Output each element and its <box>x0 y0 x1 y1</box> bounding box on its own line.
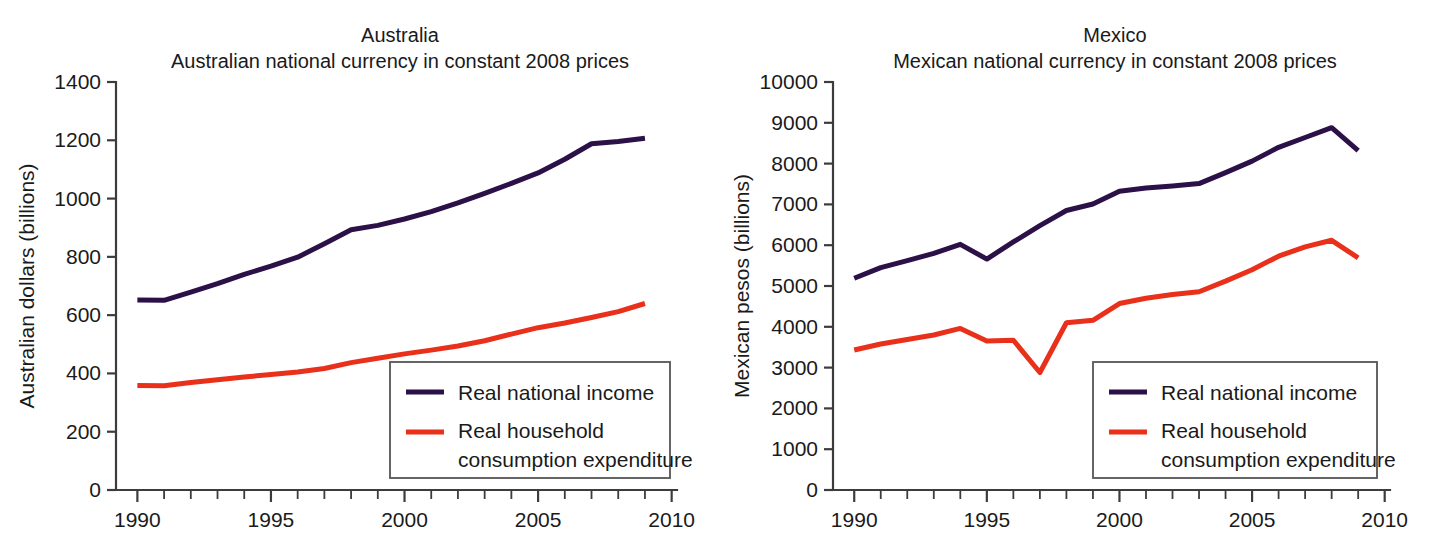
australia-y-tick-label: 0 <box>89 478 101 501</box>
mexico-y-tick-label: 9000 <box>771 111 818 134</box>
mexico-y-tick-label: 0 <box>806 478 818 501</box>
mexico-series-line <box>854 240 1358 372</box>
australia-x-tick-label: 1995 <box>248 508 295 531</box>
mexico-y-tick-label: 3000 <box>771 356 818 379</box>
mexico-x-tick-label: 2000 <box>1096 508 1143 531</box>
australia-chart-subtitle: Australian national currency in constant… <box>171 50 629 72</box>
mexico-y-tick-label: 4000 <box>771 315 818 338</box>
australia-x-tick-label: 2005 <box>515 508 562 531</box>
australia-y-tick-label: 1200 <box>54 128 101 151</box>
mexico-titles: Mexico Mexican national currency in cons… <box>893 24 1337 72</box>
australia-titles: Australia Australian national currency i… <box>171 24 629 72</box>
australia-legend: Real national income Real household cons… <box>390 362 693 478</box>
mexico-legend: Real national income Real household cons… <box>1093 362 1396 478</box>
australia-chart-title: Australia <box>361 24 440 46</box>
mexico-x-tick-label: 1995 <box>963 508 1010 531</box>
mexico-chart-subtitle: Mexican national currency in constant 20… <box>893 50 1337 72</box>
mexico-y-tick-label: 1000 <box>771 437 818 460</box>
australia-y-axis-title: Australian dollars (billions) <box>15 163 38 408</box>
australia-y-tick-label: 1400 <box>54 70 101 93</box>
australia-x-tick-label: 2000 <box>381 508 428 531</box>
mexico-y-tick-label: 8000 <box>771 152 818 175</box>
mexico-series <box>854 128 1358 373</box>
chart-panel-mexico: Mexico Mexican national currency in cons… <box>715 0 1431 552</box>
australia-x-tick-label: 2010 <box>648 508 695 531</box>
mexico-x-tick-label: 2010 <box>1361 508 1408 531</box>
mexico-legend-label-consumption-line2: consumption expenditure <box>1161 448 1396 471</box>
australia-legend-label-income: Real national income <box>458 381 654 404</box>
mexico-legend-label-consumption-line1: Real household <box>1161 419 1307 442</box>
mexico-legend-label-income: Real national income <box>1161 381 1357 404</box>
australia-legend-label-consumption-line1: Real household <box>458 419 604 442</box>
mexico-y-tick-label: 5000 <box>771 274 818 297</box>
australia-y-tick-label: 800 <box>66 245 101 268</box>
australia-y-tick-label: 1000 <box>54 187 101 210</box>
australia-y-tick-label: 600 <box>66 303 101 326</box>
figure-root: Australia Australian national currency i… <box>0 0 1431 552</box>
australia-legend-label-consumption-line2: consumption expenditure <box>458 448 693 471</box>
mexico-x-tick-label: 2005 <box>1229 508 1276 531</box>
mexico-y-axis-title: Mexican pesos (billions) <box>730 174 753 398</box>
australia-chart-svg: Australia Australian national currency i… <box>0 0 716 552</box>
mexico-x-tick-label: 1990 <box>831 508 878 531</box>
mexico-chart-title: Mexico <box>1083 24 1146 46</box>
australia-series-line <box>137 138 645 300</box>
mexico-y-tick-label: 7000 <box>771 192 818 215</box>
chart-panel-australia: Australia Australian national currency i… <box>0 0 716 552</box>
mexico-y-tick-label: 6000 <box>771 233 818 256</box>
australia-x-tick-label: 1990 <box>114 508 161 531</box>
mexico-chart-svg: Mexico Mexican national currency in cons… <box>715 0 1431 552</box>
mexico-y-tick-label: 10000 <box>760 70 818 93</box>
australia-series <box>137 138 645 385</box>
mexico-y-tick-label: 2000 <box>771 396 818 419</box>
australia-y-tick-label: 200 <box>66 420 101 443</box>
australia-y-tick-label: 400 <box>66 361 101 384</box>
